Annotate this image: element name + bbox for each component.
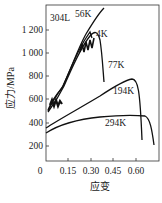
curve-serrations-low [50, 100, 62, 106]
y-tick-1200: 1 200 [22, 25, 44, 35]
stress-strain-chart: 200 400 600 800 1 000 1 200 0 0.15 0.30 … [0, 0, 162, 203]
x-ticks [68, 158, 136, 161]
y-axis-title: 应力/MPa [4, 67, 16, 109]
curve-294k [46, 115, 154, 145]
y-tick-1000: 1 000 [22, 48, 44, 58]
material-label: 304L [50, 13, 70, 23]
y-tick-200: 200 [29, 141, 44, 151]
label-77k: 77K [108, 60, 125, 70]
x-axis-title: 应变 [90, 180, 110, 192]
x-tick-0: 0 [38, 166, 43, 176]
y-tick-600: 600 [29, 94, 44, 104]
x-tick-030: 0.30 [83, 166, 100, 176]
label-4k: 4K [96, 29, 108, 39]
y-tick-800: 800 [29, 71, 44, 81]
label-56k: 56K [75, 9, 92, 19]
label-194k: 194K [113, 86, 134, 96]
y-ticks [46, 30, 49, 146]
x-tick-015: 0.15 [60, 166, 77, 176]
x-tick-045: 0.45 [105, 166, 122, 176]
y-tick-400: 400 [29, 118, 44, 128]
x-tick-060: 0.60 [128, 166, 145, 176]
label-294k: 294K [105, 118, 126, 128]
